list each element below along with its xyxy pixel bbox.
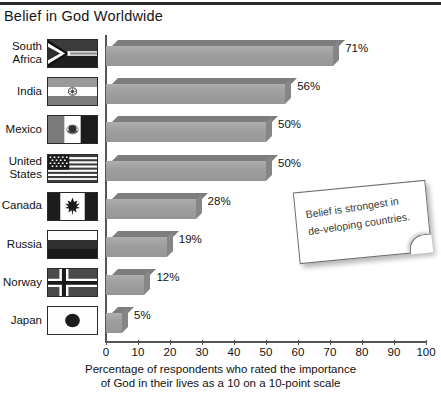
x-axis-tick-label: 80 (356, 346, 369, 358)
bar-value-label: 5% (134, 309, 151, 321)
x-axis-tick-mark (298, 340, 299, 345)
country-label: India (0, 72, 42, 110)
x-axis-tick-label: 90 (388, 346, 401, 358)
bar-side-face (285, 78, 291, 104)
country-label-line-1: Norway (3, 276, 42, 289)
bar-side-face (196, 193, 202, 219)
country-label: UnitedStates (0, 149, 42, 187)
x-axis-tick-mark (394, 340, 395, 345)
x-axis-tick-mark (330, 340, 331, 345)
bar-value-label: 50% (278, 118, 301, 130)
bar (106, 78, 291, 106)
bar-front-face (106, 122, 266, 142)
bar-front-face (106, 161, 266, 181)
bar-side-face (167, 231, 173, 257)
country-label-line-2: States (9, 168, 42, 181)
bar-value-label: 12% (156, 271, 179, 283)
country-label: Norway (0, 263, 42, 301)
bar (106, 231, 173, 259)
bar-side-face (333, 40, 339, 66)
bar-top-face (112, 193, 208, 199)
bar-side-face (144, 269, 150, 295)
x-axis-tick-mark (202, 340, 203, 345)
country-label-line-1: Russia (7, 238, 42, 251)
bar-top-face (112, 40, 345, 46)
x-axis-ticks: 0102030405060708090100 (0, 340, 441, 360)
country-label: Japan (0, 301, 42, 339)
bar-front-face (106, 84, 285, 104)
flag-united-states-icon (47, 154, 98, 183)
bar-front-face (106, 275, 144, 295)
bar (106, 307, 128, 335)
annotation-note: Belief is strongest in de-veloping count… (293, 180, 432, 264)
country-label: Mexico (0, 110, 42, 148)
flag-japan-icon (47, 306, 98, 335)
bar-side-face (122, 307, 128, 333)
page-title: Belief in God Worldwide (4, 8, 163, 24)
x-axis-caption: Percentage of respondents who rated the … (0, 362, 441, 390)
bar-top-face (112, 155, 278, 161)
x-axis-tick-label: 70 (324, 346, 337, 358)
flag-india-icon (47, 77, 98, 106)
x-axis-tick-label: 0 (103, 346, 109, 358)
country-label-line-1: South (12, 40, 42, 53)
bar-top-face (112, 78, 297, 84)
bar-value-label: 28% (208, 195, 231, 207)
x-axis-tick-mark (234, 340, 235, 345)
country-label-line-1: Canada (2, 199, 42, 212)
country-label-line-1: Japan (11, 314, 42, 327)
x-axis-tick-label: 20 (164, 346, 177, 358)
table-row: Norway12% (0, 263, 441, 301)
x-axis-caption-line-1: Percentage of respondents who rated the … (0, 362, 441, 376)
x-axis-tick-mark (362, 340, 363, 345)
flag-canada-icon (47, 192, 98, 221)
bar-front-face (106, 313, 122, 333)
table-row: SouthAfrica71% (0, 34, 441, 72)
bar (106, 40, 339, 68)
country-label-line-1: India (17, 85, 42, 98)
bar-side-face (266, 116, 272, 142)
x-axis-tick-label: 50 (260, 346, 273, 358)
bar-value-label: 56% (297, 80, 320, 92)
bar-value-label: 71% (345, 42, 368, 54)
x-axis-tick-label: 10 (132, 346, 145, 358)
bar (106, 193, 202, 221)
bar-value-label: 50% (278, 157, 301, 169)
bar (106, 116, 272, 144)
x-axis-caption-line-2: of God in their lives as a 10 on a 10-po… (0, 376, 441, 390)
bar-front-face (106, 46, 333, 66)
x-axis-tick-mark (170, 340, 171, 345)
bar-top-face (112, 116, 278, 122)
table-row: UnitedStates50% (0, 149, 441, 187)
table-row: India56% (0, 72, 441, 110)
country-label-line-2: Africa (13, 53, 42, 66)
x-axis-tick-label: 100 (416, 346, 435, 358)
bar-value-label: 19% (179, 233, 202, 245)
x-axis-tick-mark (138, 340, 139, 345)
x-axis-tick-mark (426, 340, 427, 345)
country-label: Russia (0, 225, 42, 263)
table-row: Japan5% (0, 301, 441, 339)
flag-russia-icon (47, 230, 98, 259)
bar-front-face (106, 199, 196, 219)
chart-page: Belief in God Worldwide SouthAfrica71%In… (0, 0, 441, 394)
bar (106, 155, 272, 183)
flag-south-africa-icon (47, 39, 98, 68)
title-rule (0, 2, 441, 5)
country-label-line-1: Mexico (6, 123, 42, 136)
x-axis-tick-mark (106, 340, 107, 345)
country-label: SouthAfrica (0, 34, 42, 72)
bar-side-face (266, 155, 272, 181)
x-axis-tick-mark (266, 340, 267, 345)
flag-norway-icon (47, 268, 98, 297)
table-row: Mexico50% (0, 110, 441, 148)
x-axis-tick-label: 60 (292, 346, 305, 358)
bar (106, 269, 150, 297)
flag-mexico-icon (47, 115, 98, 144)
bar-front-face (106, 237, 167, 257)
country-label: Canada (0, 187, 42, 225)
country-label-line-1: United (9, 155, 42, 168)
x-axis-tick-label: 30 (196, 346, 209, 358)
x-axis-tick-label: 40 (228, 346, 241, 358)
